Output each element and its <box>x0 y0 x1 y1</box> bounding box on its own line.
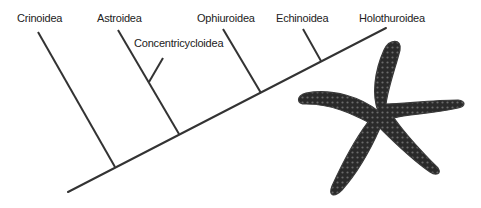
branch-concentricycloidea <box>149 58 163 82</box>
starfish-illustration <box>299 41 465 195</box>
taxon-label-crinoidea: Crinoidea <box>17 12 62 24</box>
taxon-label-echinoidea: Echinoidea <box>276 12 328 24</box>
cladogram <box>0 0 481 208</box>
branch-ophiuroidea <box>223 29 261 93</box>
branch-crinoidea <box>38 32 115 167</box>
taxon-label-ophiuroidea: Ophiuroidea <box>197 12 255 24</box>
branch-echinoidea <box>303 29 321 61</box>
taxon-label-concentricycloidea: Concentricycloidea <box>134 37 223 49</box>
taxon-label-astroidea: Astroidea <box>97 12 142 24</box>
trunk-line <box>68 28 386 192</box>
taxon-label-holothuroidea: Holothuroidea <box>359 12 425 24</box>
